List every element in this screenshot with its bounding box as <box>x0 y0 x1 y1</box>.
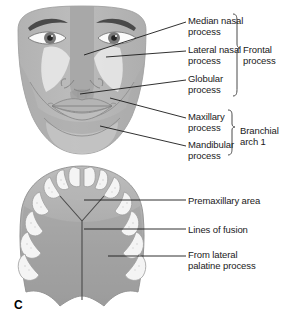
tooth-incisor-right <box>84 167 95 187</box>
label-lateral-nasal-process: Lateral nasal process <box>188 45 241 66</box>
label-frontal-process: Frontal process <box>243 45 276 66</box>
label-branchial-arch-1: Branchial arch 1 <box>240 126 279 147</box>
embryology-figure-panel-c: Median nasal process Lateral nasal proce… <box>0 0 290 321</box>
label-from-lateral-palatine-process: From lateral palatine process <box>188 250 256 271</box>
median-nasal-process-region <box>70 6 94 98</box>
label-median-nasal-process: Median nasal process <box>188 16 243 37</box>
label-lines-of-fusion: Lines of fusion <box>188 225 248 236</box>
label-maxillary-process: Maxillary process <box>188 112 225 133</box>
palate-illustration <box>18 166 146 306</box>
label-premaxillary-area: Premaxillary area <box>188 196 260 207</box>
label-mandibular-process: Mandibular process <box>188 140 234 161</box>
panel-label-c: C <box>14 298 23 312</box>
label-globular-process: Globular process <box>188 74 223 95</box>
tooth-incisor-left <box>69 167 80 187</box>
